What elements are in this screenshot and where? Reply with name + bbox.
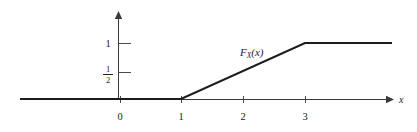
x-tick-label-2: 2 — [240, 111, 245, 122]
cdf-plot-svg: 0 1 2 3 1 x — [0, 0, 417, 132]
cdf-curve-label: FX(x) — [240, 47, 264, 60]
cdf-label-argument: (x) — [251, 46, 263, 58]
y-axis-arrowhead — [115, 11, 122, 19]
cdf-curve-path — [20, 43, 392, 99]
cdf-label-base: F — [240, 46, 247, 58]
y-tick-label-half: 1 2 — [103, 65, 113, 84]
x-tick-label-1: 1 — [178, 111, 183, 122]
x-tick-label-0: 0 — [117, 111, 122, 122]
cdf-figure: 0 1 2 3 1 x 1 2 FX(x) — [0, 0, 417, 132]
fraction-denominator: 2 — [103, 75, 113, 84]
x-axis-label: x — [398, 94, 404, 105]
y-tick-label-one: 1 — [105, 38, 110, 49]
fraction-numerator: 1 — [103, 65, 113, 75]
x-axis-arrowhead — [386, 96, 394, 103]
x-tick-label-3: 3 — [302, 111, 307, 122]
